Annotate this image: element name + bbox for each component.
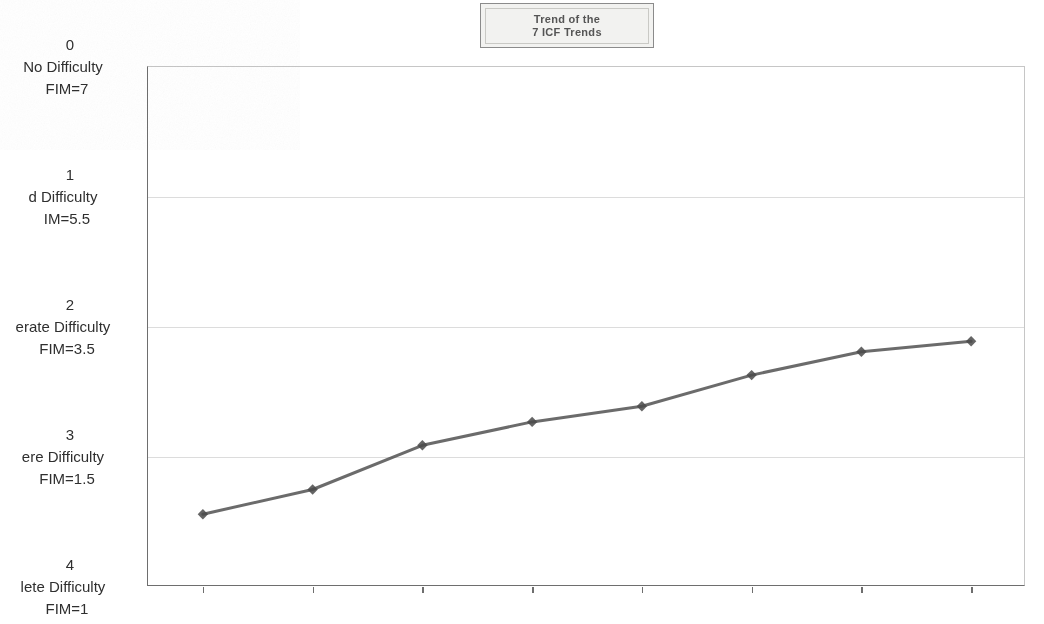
x-axis-tick-mark bbox=[313, 587, 314, 593]
series-marker bbox=[198, 509, 208, 519]
chart-title-line-2: 7 ICF Trends bbox=[532, 26, 602, 39]
y-axis-tick-fim: IM=5.5 bbox=[0, 208, 140, 230]
y-axis-tick-fim: FIM=7 bbox=[0, 78, 140, 100]
y-axis-tick-fim: FIM=1.5 bbox=[0, 468, 140, 490]
y-axis-tick-label: 0No DifficultyFIM=7 bbox=[0, 34, 140, 100]
series-marker bbox=[746, 370, 756, 380]
y-axis-tick-label: 2erate DifficultyFIM=3.5 bbox=[0, 294, 140, 360]
y-axis-tick-level: 1 bbox=[0, 164, 140, 186]
x-axis-tick-mark bbox=[642, 587, 643, 593]
y-axis-tick-level: 3 bbox=[0, 424, 140, 446]
y-axis-tick-description: erate Difficulty bbox=[0, 316, 140, 338]
x-axis-tick-mark bbox=[203, 587, 204, 593]
x-axis-tick-mark bbox=[422, 587, 423, 593]
x-axis-tick-mark bbox=[532, 587, 533, 593]
series-marker bbox=[966, 336, 976, 346]
series-line bbox=[203, 341, 971, 514]
x-axis-tick-mark bbox=[861, 587, 862, 593]
y-axis-tick-description: d Difficulty bbox=[0, 186, 140, 208]
chart-title-inner-border: Trend of the 7 ICF Trends bbox=[485, 8, 649, 44]
y-axis-tick-description: No Difficulty bbox=[0, 56, 140, 78]
x-axis-tick-mark bbox=[971, 587, 972, 593]
y-axis-tick-description: ere Difficulty bbox=[0, 446, 140, 468]
series-marker bbox=[417, 440, 427, 450]
y-axis-tick-fim: FIM=1 bbox=[0, 598, 140, 620]
y-axis-tick-level: 0 bbox=[0, 34, 140, 56]
y-axis-tick-description: lete Difficulty bbox=[0, 576, 140, 598]
y-axis-tick-level: 2 bbox=[0, 294, 140, 316]
y-axis-tick-fim: FIM=3.5 bbox=[0, 338, 140, 360]
chart-title-line-1: Trend of the bbox=[534, 13, 601, 26]
chart-title-box: Trend of the 7 ICF Trends bbox=[480, 3, 654, 48]
y-axis-tick-level: 4 bbox=[0, 554, 140, 576]
series-marker bbox=[637, 401, 647, 411]
series-marker bbox=[856, 347, 866, 357]
series-marker bbox=[307, 484, 317, 494]
x-axis-tick-mark bbox=[752, 587, 753, 593]
y-axis-tick-label: 4lete DifficultyFIM=1 bbox=[0, 554, 140, 620]
chart-plot-area: 0No DifficultyFIM=71d DifficultyIM=5.52e… bbox=[147, 66, 1025, 586]
series-marker bbox=[527, 417, 537, 427]
y-axis-tick-label: 3ere DifficultyFIM=1.5 bbox=[0, 424, 140, 490]
chart-line-series bbox=[148, 67, 1026, 587]
y-axis-tick-label: 1d DifficultyIM=5.5 bbox=[0, 164, 140, 230]
